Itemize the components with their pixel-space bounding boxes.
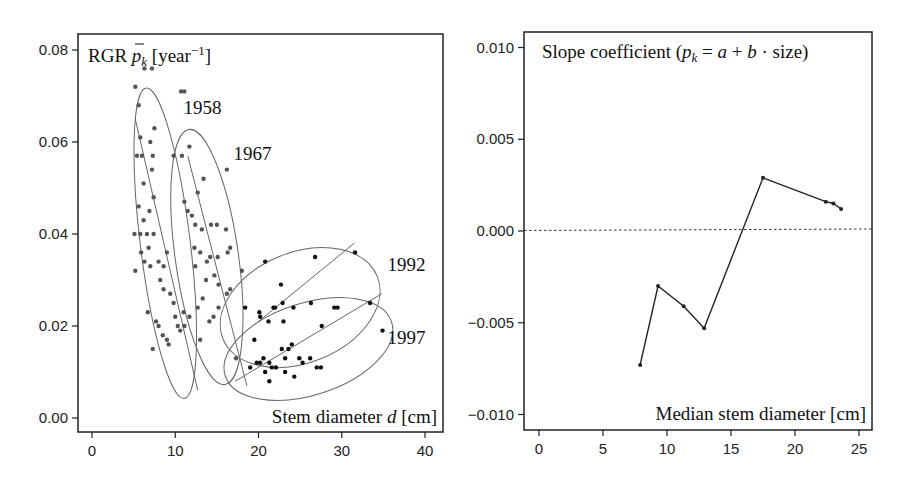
- x-tick-label: 20: [250, 442, 267, 459]
- point-1958: [148, 140, 152, 144]
- figure: 1958196719921997 010203040 0.000.020.040…: [0, 0, 901, 478]
- y-tick-label: 0.08: [39, 41, 68, 58]
- slope-point: [761, 176, 765, 180]
- point-1958: [171, 301, 175, 305]
- point-1992: [309, 301, 313, 305]
- point-1992: [281, 319, 285, 323]
- x-tick-label: 20: [787, 440, 804, 457]
- x-axis-ticks: 010203040: [88, 432, 434, 459]
- point-1967: [234, 356, 238, 360]
- point-1958: [156, 259, 160, 263]
- y-tick-label: 0.02: [39, 317, 68, 334]
- point-1967: [196, 190, 200, 194]
- point-1967: [187, 315, 191, 319]
- point-1958: [150, 66, 154, 70]
- point-1967: [228, 287, 232, 291]
- y-axis-ticks: 0.000.020.040.060.08: [39, 41, 78, 426]
- point-1958: [178, 328, 182, 332]
- point-1967: [193, 264, 197, 268]
- point-1967: [181, 310, 185, 314]
- point-1958: [136, 204, 140, 208]
- point-1997: [308, 356, 312, 360]
- point-1958: [140, 154, 144, 158]
- point-1967: [182, 200, 186, 204]
- right-panel-title: Slope coefficient (pk = a + b · size): [542, 41, 808, 65]
- point-1958: [147, 209, 151, 213]
- point-1997: [315, 365, 319, 369]
- y-tick-label: 0.000: [476, 222, 514, 239]
- point-1967: [201, 177, 205, 181]
- point-1997: [283, 356, 287, 360]
- point-1997: [267, 361, 271, 365]
- right-panel-slope-line: 0510152025 −0.010−0.0050.0000.0050.010 S…: [468, 32, 872, 457]
- fit-line-1997: [235, 294, 382, 381]
- point-1997: [319, 365, 323, 369]
- point-1967: [228, 246, 232, 250]
- x-tick-label: 0: [535, 440, 543, 457]
- x-tick-label: 25: [851, 440, 868, 457]
- point-1967: [240, 269, 244, 273]
- point-1958: [152, 126, 156, 130]
- y-axis-ticks: −0.010−0.0050.0000.0050.010: [468, 39, 524, 423]
- point-1967: [225, 292, 229, 296]
- point-1958: [156, 324, 160, 328]
- slope-point: [824, 200, 828, 204]
- point-1967: [198, 250, 202, 254]
- point-1958: [132, 232, 136, 236]
- slope-point: [682, 304, 686, 308]
- x-tick-label: 40: [417, 442, 434, 459]
- point-1967: [216, 282, 220, 286]
- point-1967: [182, 89, 186, 93]
- x-tick-label: 5: [599, 440, 607, 457]
- point-1958: [148, 264, 152, 268]
- point-1967: [216, 255, 220, 259]
- point-1967: [193, 223, 197, 227]
- point-1997: [300, 361, 304, 365]
- point-1992: [266, 319, 270, 323]
- x-tick-label: 30: [333, 442, 350, 459]
- point-1958: [142, 259, 146, 263]
- ellipse-1967: [158, 125, 257, 389]
- point-1958: [135, 154, 139, 158]
- point-1967: [224, 227, 228, 231]
- point-1958: [161, 264, 165, 268]
- point-1958: [136, 103, 140, 107]
- point-1958: [154, 319, 158, 323]
- point-1958: [146, 246, 150, 250]
- x-axis-ticks: 0510152025: [535, 430, 868, 457]
- point-1967: [187, 144, 191, 148]
- year-label-1992: 1992: [388, 254, 426, 275]
- point-1958: [161, 333, 165, 337]
- slope-polyline: [640, 178, 841, 365]
- point-1967: [208, 255, 212, 259]
- point-1992: [335, 305, 339, 309]
- right-plot-frame: [524, 32, 872, 430]
- point-1997: [280, 347, 284, 351]
- point-1967: [216, 305, 220, 309]
- y-tick-label: −0.005: [468, 314, 514, 331]
- point-1967: [171, 154, 175, 158]
- point-1958: [138, 135, 142, 139]
- y-tick-label: −0.010: [468, 406, 514, 423]
- point-1992: [279, 282, 283, 286]
- ellipse-1992: [202, 225, 398, 390]
- point-1992: [280, 301, 284, 305]
- point-1958: [139, 250, 143, 254]
- point-1958: [151, 195, 155, 199]
- point-1997: [320, 324, 324, 328]
- point-1958: [145, 232, 149, 236]
- point-1958: [166, 342, 170, 346]
- point-1967: [225, 250, 229, 254]
- point-1967: [211, 315, 215, 319]
- slope-series: [638, 176, 843, 367]
- y-tick-label: 0.005: [476, 130, 514, 147]
- point-1997: [297, 356, 301, 360]
- point-1958: [151, 154, 155, 158]
- data-points: [132, 66, 384, 383]
- point-1958: [150, 167, 154, 171]
- point-1967: [201, 296, 205, 300]
- point-1958: [176, 324, 180, 328]
- year-labels: 1958196719921997: [184, 97, 426, 348]
- slope-point: [638, 363, 642, 367]
- point-1992: [313, 255, 317, 259]
